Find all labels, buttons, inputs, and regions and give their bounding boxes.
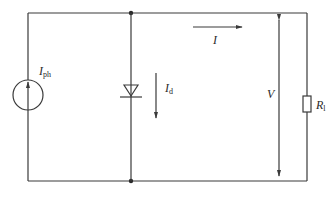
resistor	[303, 96, 311, 112]
voltage-label: V	[267, 87, 276, 101]
wires	[28, 13, 307, 181]
current-source-label: Iph	[38, 64, 51, 79]
resistor-label: Rl	[315, 98, 326, 113]
load-current-label: I	[212, 33, 218, 47]
current-source: Iph	[13, 64, 51, 110]
diode-current-label: Id	[164, 81, 173, 96]
circuit-diagram: Iph Id I V Rl	[0, 0, 334, 197]
diode	[120, 13, 142, 181]
